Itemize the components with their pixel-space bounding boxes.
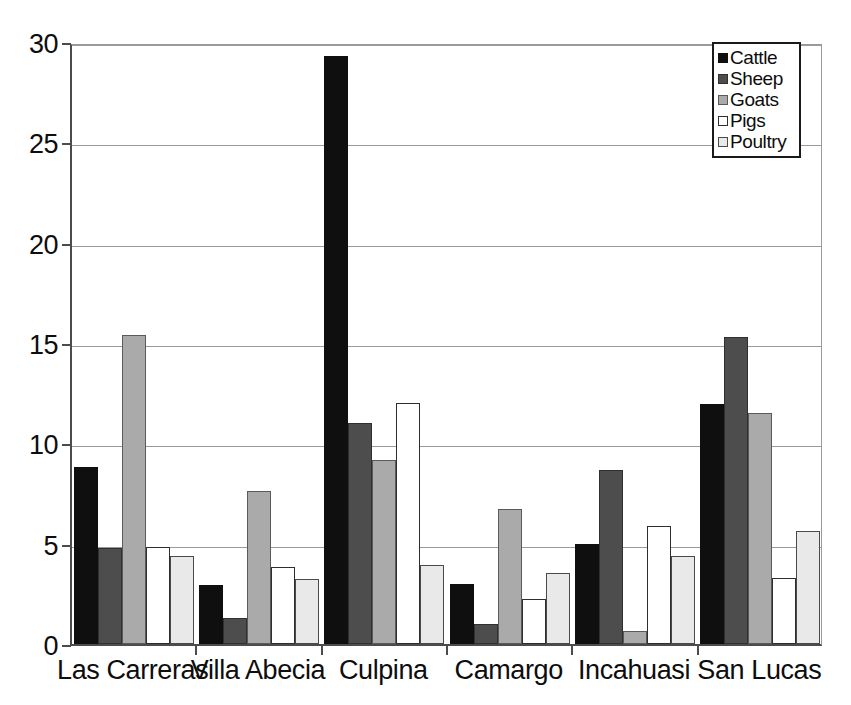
y-axis-tick-mark-0	[62, 645, 71, 647]
bar-villa-abecia-sheep[interactable]	[223, 618, 247, 644]
legend-label-pigs: Pigs	[730, 111, 765, 130]
bar-culpina-goats[interactable]	[372, 460, 396, 644]
y-axis-tick-mark-25	[62, 143, 71, 145]
legend-label-poultry: Poultry	[730, 132, 786, 151]
x-axis-category-label-culpina: Culpina	[339, 656, 428, 684]
bar-chart: 051015202530 Las CarrerasVilla AbeciaCul…	[0, 0, 851, 705]
y-axis-tick-label-20: 20	[29, 231, 58, 258]
legend-label-sheep: Sheep	[730, 69, 783, 88]
bar-villa-abecia-cattle[interactable]	[199, 585, 223, 644]
bar-las-carreras-poultry[interactable]	[170, 556, 194, 644]
bar-culpina-poultry[interactable]	[420, 565, 444, 644]
bar-camargo-pigs[interactable]	[522, 599, 546, 644]
x-axis-category-label-villa-abecia: Villa Abecia	[191, 656, 325, 684]
x-axis-category-label-incahuasi: Incahuasi	[578, 656, 690, 684]
bar-group-camargo	[448, 45, 573, 644]
legend-swatch-poultry	[718, 137, 728, 147]
bar-villa-abecia-goats[interactable]	[247, 491, 271, 645]
x-axis-category-label-camargo: Camargo	[455, 656, 563, 684]
bar-camargo-poultry[interactable]	[546, 573, 570, 644]
chart-legend: CattleSheepGoatsPigsPoultry	[712, 42, 801, 158]
bar-incahuasi-cattle[interactable]	[575, 544, 599, 644]
bar-camargo-sheep[interactable]	[474, 624, 498, 644]
bar-camargo-goats[interactable]	[498, 509, 522, 644]
y-axis-tick-label-0: 0	[43, 633, 58, 660]
x-axis-tick-mark-4	[571, 645, 573, 655]
y-axis-tick-mark-30	[62, 43, 71, 45]
legend-item-pigs[interactable]: Pigs	[718, 110, 795, 131]
bar-culpina-pigs[interactable]	[396, 403, 420, 644]
x-axis-tick-mark-2	[321, 645, 323, 655]
bar-san-lucas-poultry[interactable]	[796, 531, 820, 644]
bar-group-villa-abecia	[197, 45, 322, 644]
x-axis-tick-mark-1	[195, 645, 197, 655]
bar-culpina-cattle[interactable]	[324, 56, 348, 644]
bar-incahuasi-pigs[interactable]	[647, 526, 671, 644]
bar-group-incahuasi	[573, 45, 698, 644]
bar-group-las-carreras	[72, 45, 197, 644]
bar-las-carreras-sheep[interactable]	[98, 548, 122, 644]
legend-swatch-sheep	[718, 74, 728, 84]
x-axis-tick-mark-5	[697, 645, 699, 655]
y-axis-tick-mark-20	[62, 244, 71, 246]
legend-item-poultry[interactable]: Poultry	[718, 131, 795, 152]
bar-culpina-sheep[interactable]	[348, 423, 372, 644]
bar-las-carreras-pigs[interactable]	[146, 547, 170, 644]
bar-incahuasi-goats[interactable]	[623, 631, 647, 644]
x-axis-tick-mark-3	[446, 645, 448, 655]
plot-area	[70, 44, 822, 646]
y-axis-tick-label-5: 5	[43, 532, 58, 559]
x-axis-category-label-san-lucas: San Lucas	[697, 656, 821, 684]
y-axis-tick-mark-5	[62, 545, 71, 547]
y-axis: 051015202530	[0, 44, 58, 646]
legend-label-cattle: Cattle	[730, 48, 777, 67]
y-axis-tick-mark-10	[62, 444, 71, 446]
legend-item-goats[interactable]: Goats	[718, 89, 795, 110]
bar-las-carreras-goats[interactable]	[122, 335, 146, 644]
legend-swatch-goats	[718, 95, 728, 105]
bar-group-culpina	[323, 45, 448, 644]
bar-san-lucas-pigs[interactable]	[772, 578, 796, 644]
x-axis-category-label-las-carreras: Las Carreras	[57, 656, 208, 684]
legend-swatch-cattle	[718, 53, 728, 63]
bar-san-lucas-cattle[interactable]	[700, 404, 724, 644]
y-axis-tick-mark-15	[62, 344, 71, 346]
legend-swatch-pigs	[718, 116, 728, 126]
bar-incahuasi-sheep[interactable]	[599, 470, 623, 644]
bar-incahuasi-poultry[interactable]	[671, 556, 695, 644]
bar-villa-abecia-poultry[interactable]	[295, 579, 319, 644]
bar-las-carreras-cattle[interactable]	[74, 467, 98, 644]
y-axis-tick-label-15: 15	[29, 332, 58, 359]
y-axis-tick-label-25: 25	[29, 131, 58, 158]
y-axis-tick-label-10: 10	[29, 432, 58, 459]
bar-villa-abecia-pigs[interactable]	[271, 567, 295, 644]
legend-item-sheep[interactable]: Sheep	[718, 68, 795, 89]
legend-label-goats: Goats	[730, 90, 779, 109]
y-axis-tick-label-30: 30	[29, 31, 58, 58]
legend-item-cattle[interactable]: Cattle	[718, 47, 795, 68]
bar-san-lucas-sheep[interactable]	[724, 337, 748, 644]
bar-camargo-cattle[interactable]	[450, 584, 474, 644]
bar-san-lucas-goats[interactable]	[748, 413, 772, 644]
